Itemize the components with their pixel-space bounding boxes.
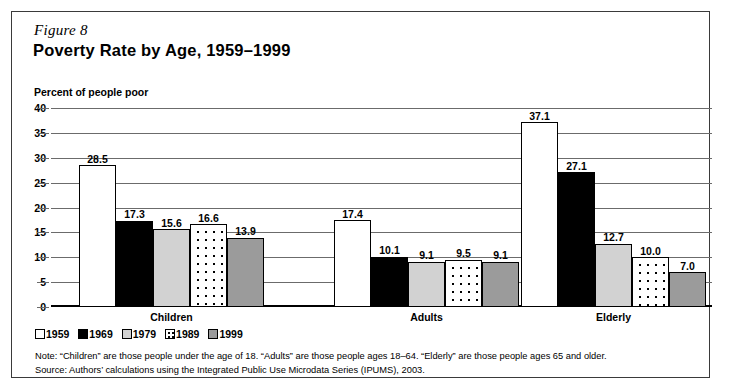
y-axis-tick: [37, 133, 49, 134]
bar-elderly-1979[interactable]: 12.7: [595, 244, 632, 307]
bar-value-label: 17.4: [342, 209, 362, 220]
figure-frame: Figure 8 Poverty Rate by Age, 1959–1999 …: [11, 11, 710, 378]
bar-elderly-1999[interactable]: 7.0: [669, 272, 706, 307]
bar-value-label: 28.5: [87, 154, 107, 165]
chart-title-text: Poverty Rate by Age, 1959–1999: [33, 41, 291, 59]
dotted-swatch: [165, 329, 175, 339]
bar-adults-1979[interactable]: 9.1: [408, 262, 445, 307]
chart-legend: 19591969197919891999: [35, 329, 243, 340]
legend-item-1999[interactable]: 1999: [208, 329, 242, 340]
footnote-source: Source: Authors’ calculations using the …: [35, 363, 695, 377]
x-axis-group-label-children: Children: [150, 311, 193, 323]
bar-value-label: 17.3: [124, 209, 144, 220]
black-swatch: [78, 329, 88, 339]
bar-group-children: 28.517.315.616.613.9Children: [79, 108, 264, 307]
light-gray-swatch: [122, 329, 132, 339]
footnote-note: Note: “Children” are those people under …: [35, 349, 695, 363]
y-axis-tick: [37, 307, 49, 308]
medium-gray-swatch: [208, 329, 218, 339]
legend-item-label: 1979: [133, 329, 156, 340]
legend-item-1969[interactable]: 1969: [78, 329, 112, 340]
y-axis-tick: [37, 208, 49, 209]
y-axis-tick: [37, 257, 49, 258]
bar-children-1999[interactable]: 13.9: [227, 238, 264, 307]
bar-value-label: 27.1: [566, 161, 586, 172]
legend-item-1989[interactable]: 1989: [165, 329, 199, 340]
bar-adults-1969[interactable]: 10.1: [371, 257, 408, 307]
page-title: Poverty Rate by Age, 1959–1999: [33, 41, 291, 60]
x-axis-group-label-elderly: Elderly: [596, 311, 631, 323]
bar-children-1969[interactable]: 17.3: [116, 221, 153, 307]
y-axis-tick: [37, 282, 49, 283]
bar-value-label: 16.6: [198, 213, 218, 224]
bar-value-label: 37.1: [529, 111, 549, 122]
bar-value-label: 9.1: [493, 250, 508, 261]
bar-value-label: 10.1: [379, 245, 399, 256]
bar-elderly-1989[interactable]: 10.0: [632, 257, 669, 307]
bar-value-label: 13.9: [235, 226, 255, 237]
bar-value-label: 15.6: [161, 218, 181, 229]
bar-value-label: 12.7: [603, 232, 623, 243]
bar-adults-1999[interactable]: 9.1: [482, 262, 519, 307]
bar-value-label: 7.0: [680, 261, 695, 272]
legend-item-1979[interactable]: 1979: [122, 329, 156, 340]
y-axis-tick: [37, 158, 49, 159]
bar-value-label: 10.0: [640, 246, 660, 257]
legend-item-label: 1989: [176, 329, 199, 340]
legend-item-label: 1999: [219, 329, 242, 340]
y-axis-tick: [37, 232, 49, 233]
y-axis-title: Percent of people poor: [34, 86, 148, 98]
bar-value-label: 9.1: [419, 250, 434, 261]
legend-item-label: 1959: [46, 329, 69, 340]
legend-item-label: 1969: [89, 329, 112, 340]
y-axis-tick: [37, 183, 49, 184]
chart-plot-area: 051015202530354028.517.315.616.613.9Chil…: [51, 108, 712, 307]
x-axis-group-label-adults: Adults: [410, 311, 443, 323]
figure-number: Figure 8: [34, 22, 88, 39]
bar-children-1959[interactable]: 28.5: [79, 165, 116, 307]
bar-group-elderly: 37.127.112.710.07.0Elderly: [521, 108, 706, 307]
white-swatch: [35, 329, 45, 339]
bar-children-1989[interactable]: 16.6: [190, 224, 227, 307]
bar-adults-1959[interactable]: 17.4: [334, 220, 371, 307]
bar-children-1979[interactable]: 15.6: [153, 229, 190, 307]
bar-elderly-1969[interactable]: 27.1: [558, 172, 595, 307]
bar-adults-1989[interactable]: 9.5: [445, 260, 482, 307]
bar-elderly-1959[interactable]: 37.1: [521, 122, 558, 307]
bar-group-adults: 17.410.19.19.59.1Adults: [334, 108, 519, 307]
bar-value-label: 9.5: [456, 248, 471, 259]
legend-item-1959[interactable]: 1959: [35, 329, 69, 340]
footnotes: Note: “Children” are those people under …: [35, 349, 695, 377]
y-axis-tick: [37, 108, 49, 109]
